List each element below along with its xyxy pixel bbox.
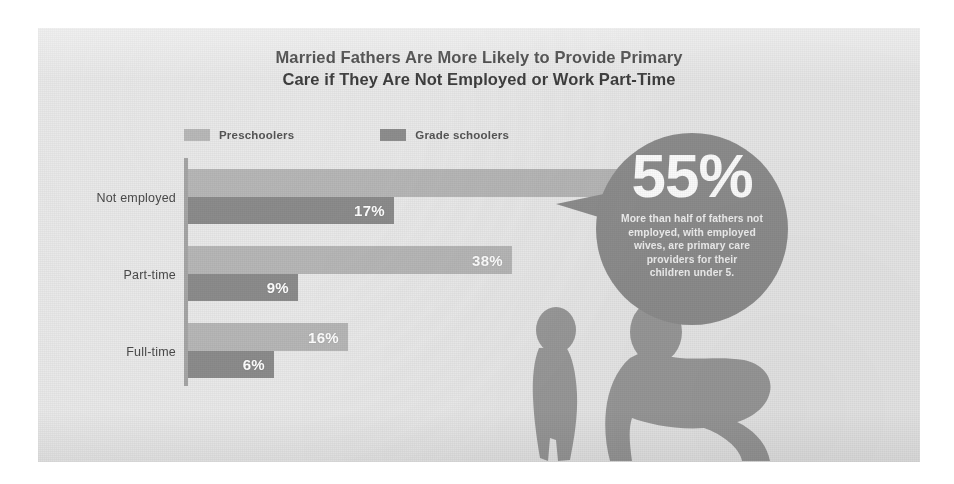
chart-legend: Preschoolers Grade schoolers — [184, 129, 509, 141]
category-label-full-time: Full-time — [46, 345, 176, 359]
bar-full-time-grade-schoolers: 6% — [188, 351, 274, 378]
callout-caption-line-4: providers for their — [613, 253, 771, 267]
callout-caption: More than half of fathers not employed, … — [613, 212, 771, 280]
category-label-not-employed-wrap: Not employed — [46, 191, 178, 205]
category-label-not-employed: Not employed — [46, 191, 176, 205]
callout-circle: 55% More than half of fathers not employ… — [596, 133, 788, 325]
chart-title-line-1: Married Fathers Are More Likely to Provi… — [38, 46, 920, 68]
bar-not-employed-grade-schoolers: 17% — [188, 197, 394, 224]
bar-value-not-employed-grade-schoolers: 17% — [354, 202, 385, 219]
category-label-part-time: Part-time — [46, 268, 176, 282]
bar-part-time-preschoolers: 38% — [188, 246, 512, 274]
category-label-part-time-wrap: Part-time — [46, 268, 178, 282]
bar-full-time-preschoolers: 16% — [188, 323, 348, 351]
callout-caption-line-1: More than half of fathers not — [613, 212, 771, 226]
category-label-full-time-wrap: Full-time — [46, 345, 178, 359]
legend-label-grade-schoolers: Grade schoolers — [415, 129, 509, 141]
legend-swatch-grade-schoolers-icon — [380, 129, 406, 141]
bar-value-part-time-grade-schoolers: 9% — [267, 279, 289, 296]
legend-item-grade-schoolers: Grade schoolers — [380, 129, 509, 141]
bar-value-full-time-grade-schoolers: 6% — [243, 356, 265, 373]
callout-bubble: 55% More than half of fathers not employ… — [556, 133, 788, 365]
callout-caption-line-5: children under 5. — [613, 266, 771, 280]
callout-big-value: 55% — [631, 145, 752, 207]
callout-caption-line-3: wives, are primary care — [613, 239, 771, 253]
chart-title-line-2: Care if They Are Not Employed or Work Pa… — [38, 68, 920, 90]
bar-value-part-time-preschoolers: 38% — [472, 252, 503, 269]
bar-part-time-grade-schoolers: 9% — [188, 274, 298, 301]
bar-value-full-time-preschoolers: 16% — [308, 329, 339, 346]
infographic-card: Married Fathers Are More Likely to Provi… — [38, 28, 920, 462]
legend-swatch-preschoolers-icon — [184, 129, 210, 141]
legend-label-preschoolers: Preschoolers — [219, 129, 294, 141]
chart-title: Married Fathers Are More Likely to Provi… — [38, 46, 920, 90]
legend-item-preschoolers: Preschoolers — [184, 129, 294, 141]
callout-caption-line-2: employed, with employed — [613, 226, 771, 240]
